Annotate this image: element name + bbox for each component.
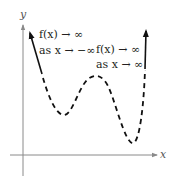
graph-canvas: [0, 0, 170, 183]
right-annotation-line1: f(x) → ∞: [96, 44, 140, 55]
left-annotation-line1: f(x) → ∞: [39, 29, 83, 40]
left-annotation-line2: as x → −∞: [39, 45, 96, 56]
polynomial-curve-dashed: [43, 70, 145, 143]
right-annotation-line2: as x → ∞: [96, 59, 143, 70]
x-axis-label: x: [160, 149, 166, 160]
y-axis-label: y: [20, 9, 26, 20]
end-behavior-graph: y x f(x) → ∞ as x → −∞ f(x) → ∞ as x → ∞: [0, 0, 170, 183]
right-end-arrow: [145, 31, 146, 69]
